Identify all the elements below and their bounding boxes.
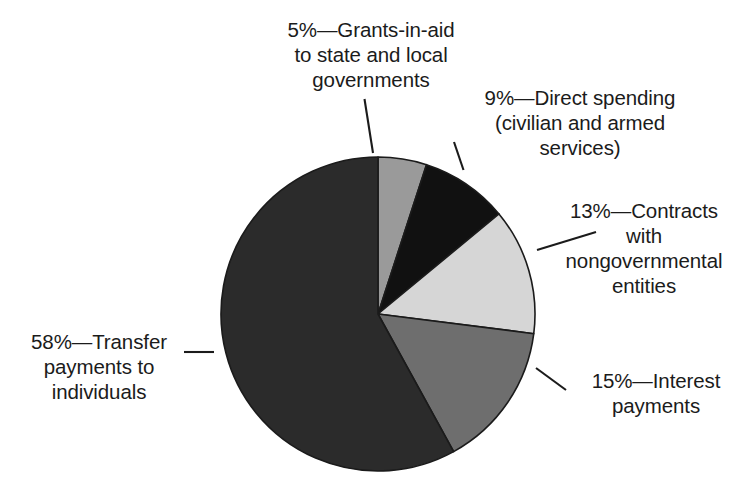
pie-slice-group (221, 157, 535, 471)
slice-label-grants-in-aid: 5%—Grants-in-aid to state and local gove… (254, 17, 488, 92)
leader-line-interest (536, 368, 566, 390)
slice-label-interest-payments: 15%—Interest payments (570, 368, 742, 418)
leader-line-grants (365, 99, 374, 153)
slice-label-direct-spending: 9%—Direct spending (civilian and armed s… (455, 85, 705, 160)
pie-chart-figure: 5%—Grants-in-aid to state and local gove… (0, 0, 745, 497)
slice-label-transfer-payments: 58%—Transfer payments to individuals (10, 329, 188, 404)
slice-label-contracts: 13%—Contracts with nongovernmental entit… (546, 198, 742, 298)
